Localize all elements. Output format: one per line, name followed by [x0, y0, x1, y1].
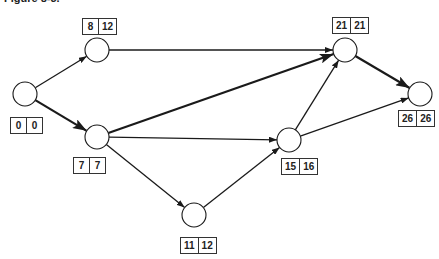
early-time: 8 [83, 19, 98, 34]
late-time: 12 [98, 19, 116, 34]
node-C-times-box: 77 [73, 157, 106, 174]
node-B-times-box: 812 [82, 18, 117, 35]
late-time: 7 [89, 158, 105, 173]
node-F-times-box: 2121 [332, 17, 369, 34]
edge-C-D [106, 145, 184, 208]
early-time: 26 [399, 111, 416, 126]
early-time: 0 [11, 118, 26, 133]
edge-A-C [35, 100, 86, 131]
node-D-times-box: 1112 [180, 237, 217, 254]
edge-D-E [203, 147, 279, 207]
node-G-times-box: 2626 [398, 110, 435, 127]
node-G [408, 82, 432, 106]
edge-E-F [295, 60, 338, 130]
late-time: 16 [299, 159, 317, 174]
early-time: 7 [74, 158, 89, 173]
edge-A-B [35, 56, 87, 87]
node-A-times-box: 00 [10, 117, 43, 134]
early-time: 21 [333, 18, 350, 33]
node-C [85, 125, 109, 149]
edge-C-F [108, 54, 333, 133]
node-D [182, 203, 206, 227]
node-E [277, 128, 301, 152]
late-time: 12 [198, 238, 216, 253]
node-E-times-box: 1516 [281, 158, 318, 175]
nodes-layer [13, 38, 432, 227]
late-time: 21 [350, 18, 368, 33]
late-time: 26 [416, 111, 434, 126]
node-A [13, 82, 37, 106]
node-B [85, 38, 109, 62]
edge-F-G [355, 56, 409, 88]
early-time: 11 [181, 238, 198, 253]
edge-E-G [300, 98, 408, 136]
node-F [333, 38, 357, 62]
network-diagram [0, 0, 439, 259]
edge-C-E [109, 137, 277, 140]
late-time: 0 [26, 118, 42, 133]
early-time: 15 [282, 159, 299, 174]
